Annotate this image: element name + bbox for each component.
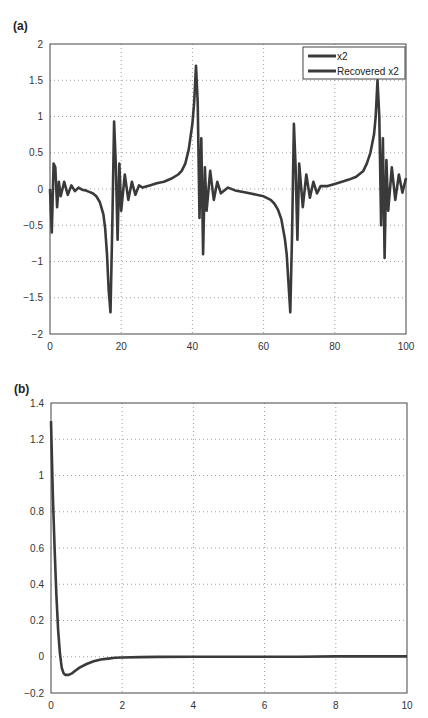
x-tick-label: 10 bbox=[401, 700, 413, 711]
x-tick-label: 40 bbox=[187, 341, 199, 352]
x-tick-label: 0 bbox=[48, 700, 54, 711]
y-tick-label: 2 bbox=[37, 39, 43, 50]
legend: x2 Recovered x2 bbox=[303, 47, 405, 79]
y-tick-label: 0 bbox=[38, 651, 44, 662]
y-tick-label: −0.2 bbox=[24, 688, 44, 699]
y-tick-label: 1.2 bbox=[30, 434, 44, 445]
x-tick-label: 80 bbox=[329, 341, 341, 352]
y-tick-label: 0.5 bbox=[29, 147, 43, 158]
y-tick-label: −1.5 bbox=[23, 292, 43, 303]
plot-frame bbox=[51, 403, 407, 693]
x-tick-label: 8 bbox=[333, 700, 339, 711]
x-tick-label: 100 bbox=[398, 341, 415, 352]
y-tick-label: 0.6 bbox=[30, 543, 44, 554]
chart-a: 020406080100−2−1.5−1−0.500.511.52 bbox=[23, 39, 415, 353]
series-line bbox=[50, 66, 406, 312]
y-tick-label: −1 bbox=[32, 256, 44, 267]
x-tick-label: 6 bbox=[262, 700, 268, 711]
chart-canvas: 020406080100−2−1.5−1−0.500.511.52 024681… bbox=[0, 0, 428, 718]
y-tick-label: 1 bbox=[37, 111, 43, 122]
y-tick-label: 1.4 bbox=[30, 398, 44, 409]
x-tick-label: 2 bbox=[119, 700, 125, 711]
series-line bbox=[51, 421, 407, 675]
legend-label-x2: x2 bbox=[337, 51, 348, 62]
y-tick-label: −2 bbox=[32, 329, 44, 340]
legend-label-recovered-x2: Recovered x2 bbox=[337, 66, 399, 77]
x-tick-label: 20 bbox=[116, 341, 128, 352]
y-tick-label: 1.5 bbox=[29, 75, 43, 86]
y-tick-label: −0.5 bbox=[23, 220, 43, 231]
y-tick-label: 0.8 bbox=[30, 506, 44, 517]
x-tick-label: 0 bbox=[47, 341, 53, 352]
y-tick-label: 0.4 bbox=[30, 579, 44, 590]
y-tick-label: 1 bbox=[38, 470, 44, 481]
chart-b: 0246810−0.200.20.40.60.811.21.4 bbox=[24, 398, 413, 712]
x-tick-label: 60 bbox=[258, 341, 270, 352]
y-tick-label: 0.2 bbox=[30, 615, 44, 626]
y-tick-label: 0 bbox=[37, 184, 43, 195]
x-tick-label: 4 bbox=[191, 700, 197, 711]
